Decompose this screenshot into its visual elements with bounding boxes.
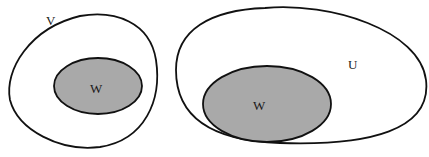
label-u: U (348, 57, 358, 72)
left-figure: V W (9, 13, 157, 148)
set-w-right (203, 66, 331, 142)
label-w-left: W (90, 81, 103, 96)
right-figure: U W (176, 7, 426, 143)
label-w-right: W (253, 98, 266, 113)
venn-diagram: V W U W (0, 0, 429, 157)
label-v: V (46, 13, 56, 28)
